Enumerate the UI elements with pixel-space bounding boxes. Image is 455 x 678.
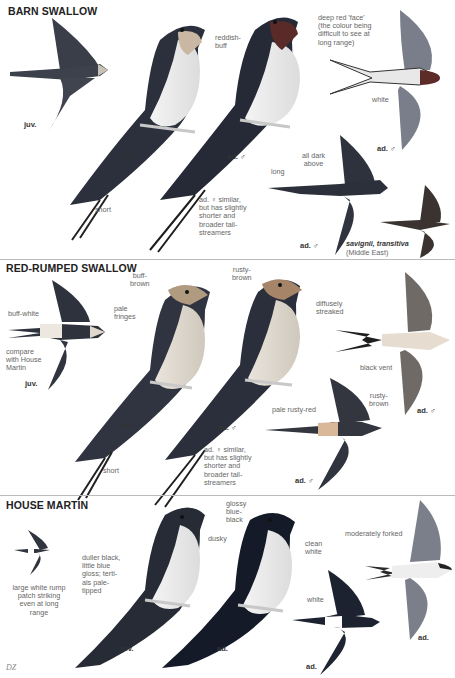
label-middle-east: (Middle East) bbox=[346, 249, 388, 257]
label-short: short bbox=[95, 206, 111, 214]
age-label-adult-male: ad. ♂ bbox=[300, 241, 319, 250]
house-martin-adult-flight-upperside-icon bbox=[292, 570, 380, 675]
label-all-dark-above: all dark above bbox=[302, 152, 325, 168]
house-martin-adult-flight-underside-icon bbox=[365, 500, 452, 640]
label-savignii-transitiva: savignii, transitiva bbox=[346, 240, 409, 248]
label-deep-red-face: deep red 'face' (the colour being diffic… bbox=[318, 14, 372, 47]
age-label-adult-male: ad. ♂ bbox=[227, 152, 246, 161]
age-label-adult: ad. bbox=[306, 662, 317, 671]
age-label-adult-male: ad. ♂ bbox=[417, 406, 436, 415]
age-label-adult: ad. bbox=[418, 633, 429, 642]
label-white: white bbox=[307, 596, 324, 604]
label-glossy-blue-black: glossy blue- black bbox=[226, 500, 246, 525]
label-rusty-brown-head: rusty- brown bbox=[232, 266, 252, 282]
label-buff-brown: buff- brown bbox=[130, 272, 150, 288]
label-compare-house-martin: compare with House Martin bbox=[6, 348, 42, 373]
label-dusky: dusky bbox=[208, 535, 227, 543]
barn-swallow-adult-male-flight-upperside-icon bbox=[268, 135, 388, 255]
species-title-red-rumped-swallow: RED-RUMPED SWALLOW bbox=[6, 262, 137, 274]
age-label-juv: juv. bbox=[24, 120, 36, 129]
age-label-juv: juv. bbox=[123, 152, 135, 161]
age-label-adult: ad. bbox=[217, 644, 228, 653]
red-rumped-swallow-adult-male-flight-upperside-icon bbox=[265, 378, 382, 490]
label-short: short bbox=[103, 467, 119, 475]
age-label-juv: juv. bbox=[25, 379, 37, 388]
age-label-adult-male: ad. ♂ bbox=[218, 423, 237, 432]
barn-swallow-juv-flight-icon bbox=[10, 18, 108, 132]
label-buff-white: buff-white bbox=[8, 310, 39, 318]
age-label-adult-male: ad. ♂ bbox=[295, 476, 314, 485]
label-black-vent: black vent bbox=[360, 364, 392, 372]
label-pale-fringes: pale fringes bbox=[114, 305, 136, 321]
age-label-juv: juv. bbox=[121, 644, 133, 653]
label-pale-rusty-red: pale rusty-red bbox=[272, 406, 316, 414]
label-rusty-brown-nape: rusty- brown bbox=[369, 392, 389, 408]
field-guide-plate: BARN SWALLOW reddish- buff deep red 'fac… bbox=[0, 0, 455, 678]
artist-signature: DZ bbox=[6, 663, 16, 672]
section-divider bbox=[0, 259, 455, 260]
red-rumped-swallow-juv-perched-icon bbox=[75, 285, 210, 500]
label-long: long bbox=[271, 168, 285, 176]
label-diffusely-streaked: diffusely streaked bbox=[316, 300, 344, 316]
label-duller-black: duller black, little blue gloss; terti- … bbox=[82, 554, 120, 595]
red-rumped-swallow-juv-flight-icon bbox=[8, 280, 105, 390]
species-title-house-martin: HOUSE MARTIN bbox=[6, 499, 88, 511]
label-white: white bbox=[372, 96, 389, 104]
label-female-note: ad. ♀ similar, but has slightly shorter … bbox=[199, 196, 247, 237]
age-label-adult-male: ad. ♂ bbox=[377, 144, 396, 153]
species-title-barn-swallow: BARN SWALLOW bbox=[8, 5, 97, 17]
label-moderately-forked: moderately forked bbox=[345, 530, 403, 538]
house-martin-distant-flight-icon bbox=[14, 530, 50, 575]
section-divider bbox=[0, 495, 455, 496]
label-rump-note: large white rump patch striking even at … bbox=[4, 584, 74, 617]
label-clean-white: clean white bbox=[305, 540, 322, 556]
age-label-juv: juv. bbox=[121, 421, 133, 430]
label-female-note: ad. ♀ similar, but has slightly shorter … bbox=[204, 446, 252, 487]
label-reddish-buff: reddish- buff bbox=[215, 34, 241, 50]
